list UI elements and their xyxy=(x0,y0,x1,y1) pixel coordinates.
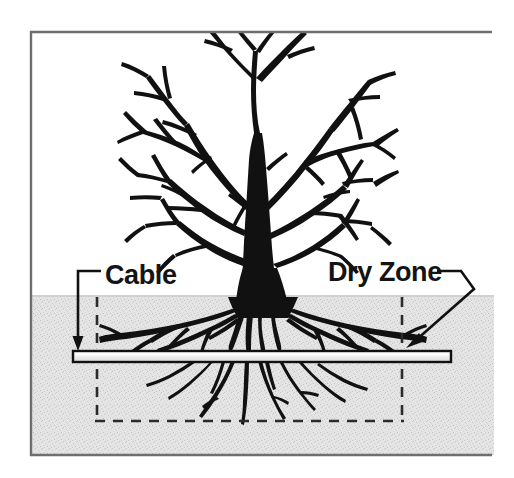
cable-label: Cable xyxy=(105,260,177,290)
cable-body xyxy=(73,351,451,362)
buried-horizontal-cable xyxy=(73,351,451,362)
figure-root: Cable Dry Zone xyxy=(0,0,514,478)
diagram-canvas: Cable Dry Zone xyxy=(0,0,514,478)
dry-zone-label: Dry Zone xyxy=(328,257,442,287)
